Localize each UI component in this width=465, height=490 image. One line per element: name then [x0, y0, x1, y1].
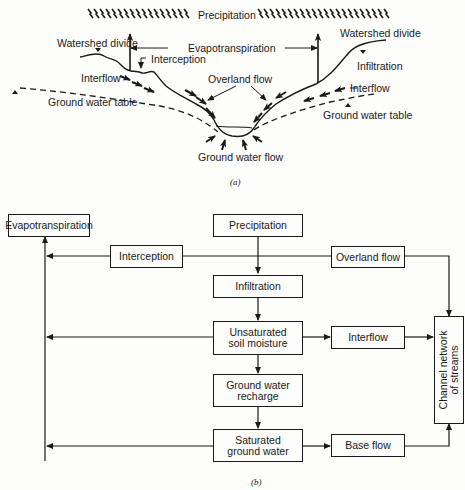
box-saturated-label-1: Saturated: [235, 435, 281, 446]
box-channel-network-label-1: Channel network: [438, 331, 449, 410]
box-precipitation: Precipitation: [213, 214, 303, 237]
box-ground-water-recharge: Ground water recharge: [213, 374, 303, 407]
box-interception: Interception: [110, 245, 183, 268]
box-saturated-label-2: ground water: [227, 446, 288, 457]
box-overland-flow: Overland flow: [331, 246, 405, 268]
box-infiltration: Infiltration: [213, 275, 303, 298]
box-precipitation-label: Precipitation: [229, 220, 287, 231]
box-saturated-ground-water: Saturated ground water: [213, 429, 303, 462]
box-overland-flow-label: Overland flow: [336, 252, 400, 263]
box-channel-network-label-2: of streams: [449, 331, 460, 410]
box-unsaturated-soil-moisture: Unsaturated soil moisture: [213, 321, 303, 355]
box-recharge-label-2: recharge: [237, 391, 278, 402]
box-channel-network: Channel network of streams: [434, 316, 464, 424]
box-evapotranspiration-label: Evapotranspiration: [5, 220, 93, 231]
box-recharge-label-1: Ground water: [226, 380, 290, 391]
box-base-flow: Base flow: [331, 434, 405, 457]
box-unsaturated-label-2: soil moisture: [229, 338, 288, 349]
caption-b: (b): [251, 477, 262, 487]
box-interflow-label: Interflow: [348, 332, 388, 343]
box-evapotranspiration: Evapotranspiration: [8, 214, 90, 237]
box-base-flow-label: Base flow: [345, 440, 391, 451]
figure-b-connectors: [0, 0, 465, 490]
box-interception-label: Interception: [119, 251, 174, 262]
box-interflow: Interflow: [331, 326, 405, 349]
box-infiltration-label: Infiltration: [235, 281, 281, 292]
